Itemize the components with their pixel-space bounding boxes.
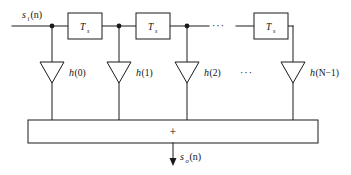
coefficient-tap-0-arg: (0) — [75, 68, 86, 79]
delay-block-n-label: T — [266, 22, 272, 32]
coefficient-label-tap-2: h (2) — [204, 67, 221, 79]
gain-triangle-tap-1 — [107, 62, 131, 83]
gain-triangle-tap-1-body — [107, 62, 131, 83]
gain-triangle-tap-last-body — [281, 62, 305, 83]
input-signal-label: s i (n) — [22, 9, 42, 22]
input-signal-subscript: i — [28, 15, 30, 22]
output-signal-label: s o (n) — [180, 151, 201, 164]
coefficient-tap-last-symbol: h — [310, 67, 315, 78]
input-signal-arg: (n) — [31, 9, 43, 21]
ellipsis-top: ··· — [212, 20, 225, 31]
output-arrow — [170, 143, 177, 166]
coefficient-tap-0-symbol: h — [69, 67, 74, 78]
gain-triangle-tap-0-body — [40, 62, 64, 83]
delay-block-1: T s — [68, 13, 102, 39]
junction-dot-tap-2 — [185, 24, 190, 29]
gain-triangle-tap-2 — [175, 62, 199, 83]
output-arrow-head — [170, 158, 177, 166]
fir-filter-diagram: T s T s T s — [0, 0, 351, 175]
coefficient-tap-1-arg: (1) — [142, 68, 153, 79]
gain-triangle-tap-2-body — [175, 62, 199, 83]
delay-block-2: T s — [136, 13, 170, 39]
coefficient-tap-1-symbol: h — [136, 67, 141, 78]
input-signal-base: s — [22, 9, 26, 20]
gain-triangle-tap-last — [281, 62, 305, 83]
coefficient-label-tap-last: h (N−1) — [310, 67, 339, 79]
gain-triangle-tap-0 — [40, 62, 64, 83]
coefficient-tap-2-arg: (2) — [210, 68, 221, 79]
output-signal-base: s — [180, 151, 184, 162]
coefficient-label-tap-0: h (0) — [69, 67, 86, 79]
tap-branch-wires-lower — [52, 83, 293, 120]
diagram-canvas: T s T s T s — [0, 0, 351, 175]
coefficient-label-tap-1: h (1) — [136, 67, 153, 79]
delay-block-2-label: T — [148, 22, 154, 32]
coefficient-tap-last-arg: (N−1) — [316, 68, 339, 79]
summing-junction: + — [28, 120, 318, 143]
output-signal-arg: (n) — [190, 151, 202, 163]
ellipsis-middle: ··· — [240, 67, 253, 78]
delay-block-1-label: T — [80, 22, 86, 32]
coefficient-tap-2-symbol: h — [204, 67, 209, 78]
delay-block-n: T s — [254, 13, 288, 39]
junction-dot-tap-1 — [117, 24, 122, 29]
junction-dot-tap-0 — [50, 24, 55, 29]
summing-junction-symbol: + — [170, 125, 177, 139]
